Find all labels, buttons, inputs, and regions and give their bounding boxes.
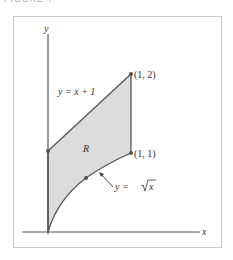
region-diagram: y x y = x + 1 R (1, 2) (1, 1) y = x bbox=[0, 0, 233, 260]
line-label: y = x + 1 bbox=[57, 86, 95, 97]
x-axis-label: x bbox=[201, 226, 207, 237]
region-label: R bbox=[82, 143, 89, 154]
point-1-1 bbox=[129, 151, 133, 155]
point-on-sqrt-curve bbox=[84, 176, 88, 180]
sqrt-label-radicand: x bbox=[148, 181, 154, 192]
sqrt-label-prefix: y = bbox=[114, 181, 129, 192]
point-1-2 bbox=[129, 72, 133, 76]
point-0-1 bbox=[46, 149, 50, 153]
curve-pointer-arrow bbox=[101, 174, 113, 187]
region-r-fill bbox=[48, 74, 131, 232]
point-label-1-1: (1, 1) bbox=[134, 148, 156, 160]
point-label-1-2: (1, 2) bbox=[134, 69, 156, 81]
y-axis-label: y bbox=[43, 23, 49, 34]
